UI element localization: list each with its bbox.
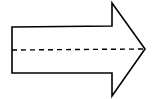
arrow-diagram <box>0 0 158 99</box>
